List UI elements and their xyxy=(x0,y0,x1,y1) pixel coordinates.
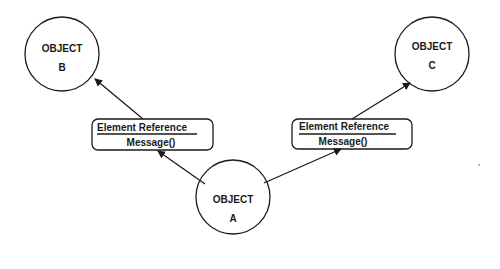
object-a-node: OBJECT A xyxy=(196,160,270,234)
arrow-a-to-right-reference xyxy=(264,149,341,183)
object-a-title: OBJECT xyxy=(213,194,254,205)
reference-right-method: Message() xyxy=(319,136,368,147)
object-c-node: OBJECT C xyxy=(395,17,469,91)
object-c-letter: C xyxy=(428,60,435,71)
object-b-node: OBJECT B xyxy=(25,17,99,91)
object-b-letter: B xyxy=(58,62,65,73)
element-reference-left: Element Reference Message() xyxy=(92,119,213,150)
reference-right-title: Element Reference xyxy=(299,121,389,132)
object-b-title: OBJECT xyxy=(42,43,83,54)
object-a-letter: A xyxy=(229,213,236,224)
arrow-left-reference-to-b xyxy=(95,79,143,119)
reference-left-title: Element Reference xyxy=(97,122,187,133)
object-c-circle xyxy=(395,17,469,91)
object-c-title: OBJECT xyxy=(412,41,453,52)
reference-left-method: Message() xyxy=(127,137,176,148)
stray-dot xyxy=(478,164,480,166)
arrow-right-reference-to-c xyxy=(352,83,410,119)
arrow-a-to-left-reference xyxy=(158,151,205,184)
object-b-circle xyxy=(25,17,99,91)
element-reference-right: Element Reference Message() xyxy=(292,119,412,149)
object-reference-diagram: OBJECT B OBJECT C OBJECT A Element Refer… xyxy=(0,0,500,269)
